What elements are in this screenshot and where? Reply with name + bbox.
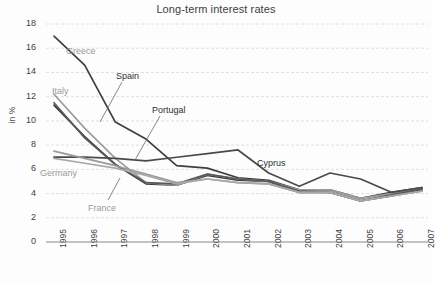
annotation-leader-line <box>108 178 120 200</box>
series-label-france: France <box>88 203 116 213</box>
series-label-greece: Greece <box>66 46 96 56</box>
series-label-germany: Germany <box>40 168 77 178</box>
annotation-leader-line <box>135 116 160 160</box>
series-label-spain: Spain <box>116 71 139 81</box>
series-line <box>54 150 422 192</box>
series-lines <box>54 36 422 201</box>
series-line <box>54 36 422 198</box>
gridlines <box>46 24 428 218</box>
series-label-italy: Italy <box>52 86 69 96</box>
series-label-portugal: Portugal <box>152 105 186 115</box>
series-label-cyprus: Cyprus <box>257 158 286 168</box>
annotation-leader-line <box>100 82 122 122</box>
